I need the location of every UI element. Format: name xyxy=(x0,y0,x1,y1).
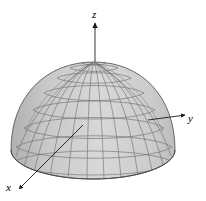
y-axis-label: y xyxy=(188,113,193,124)
surface-plot-figure: z y x xyxy=(0,0,206,201)
x-axis-label: x xyxy=(6,182,11,193)
z-axis-label: z xyxy=(92,9,96,20)
paraboloid-surface-plot xyxy=(0,0,206,201)
